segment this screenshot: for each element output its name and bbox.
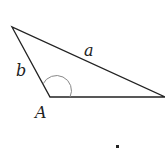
angle-a-label: A (33, 103, 47, 122)
triangle (12, 27, 165, 97)
angle-arc (43, 76, 71, 97)
side-b-label: b (16, 61, 26, 80)
footer-mark (116, 145, 119, 148)
triangle-diagram: a b A (0, 0, 165, 148)
side-a-label: a (84, 41, 94, 60)
